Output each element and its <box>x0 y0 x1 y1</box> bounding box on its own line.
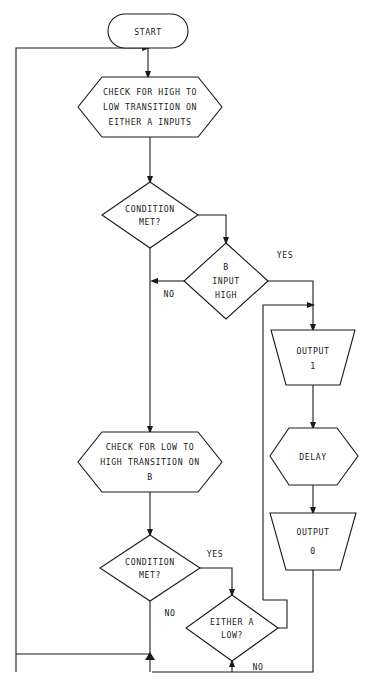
node-condition-met-2-line2: MET? <box>139 570 161 580</box>
node-condition-met-1-line1: CONDITION <box>125 204 175 214</box>
connector-condition-2-yes <box>200 568 232 595</box>
node-either-a-low[interactable] <box>186 595 278 661</box>
edge-label-condition-2-yes: YES <box>207 549 224 559</box>
node-check-high-low-line2: LOW TRANSITION ON <box>103 102 197 112</box>
node-output-0[interactable] <box>270 513 356 570</box>
connector-b-input-high-yes <box>268 281 313 305</box>
flowchart-canvas: START CHECK FOR HIGH TO LOW TRANSITION O… <box>0 0 369 690</box>
edge-label-b-input-high-yes: YES <box>277 250 294 260</box>
edge-label-either-a-low-no: NO <box>252 662 263 672</box>
node-b-input-high-line2: INPUT <box>212 276 240 286</box>
node-check-high-low-line3: EITHER A INPUTS <box>109 117 192 127</box>
arrowhead-b-input-high-no <box>150 278 158 284</box>
node-check-low-high-line3: B <box>147 472 153 482</box>
node-condition-met-2[interactable] <box>100 535 200 601</box>
node-delay-label: DELAY <box>299 452 327 462</box>
node-output-0-line1: OUTPUT <box>296 527 329 537</box>
node-check-high-low-line1: CHECK FOR HIGH TO <box>103 87 197 97</box>
node-check-low-high-line2: HIGH TRANSITION ON <box>100 457 200 467</box>
connector-condition-1-to-b-input-high <box>198 215 226 243</box>
node-output-1-line1: OUTPUT <box>296 346 329 356</box>
node-output-0-line2: 0 <box>310 546 316 556</box>
edge-label-b-input-high-no: NO <box>163 289 174 299</box>
node-condition-met-2-line1: CONDITION <box>125 557 175 567</box>
edge-label-condition-2-no: NO <box>164 608 175 618</box>
node-b-input-high-line3: HIGH <box>215 290 237 300</box>
node-either-a-low-line1: EITHER A <box>210 617 254 627</box>
node-output-1-line2: 1 <box>310 361 316 371</box>
node-output-1[interactable] <box>271 330 355 385</box>
node-condition-met-1-line2: MET? <box>139 217 161 227</box>
node-either-a-low-line2: LOW? <box>221 630 243 640</box>
node-start-label: START <box>134 27 162 37</box>
node-b-input-high-line1: B <box>223 262 229 272</box>
node-check-low-high-line1: CHECK FOR LOW TO <box>106 442 194 452</box>
node-condition-met-1[interactable] <box>102 182 198 248</box>
flowchart-svg: START CHECK FOR HIGH TO LOW TRANSITION O… <box>0 0 369 690</box>
arrowhead-bottom-left-rail-entry <box>145 652 155 660</box>
arrowhead-either-a-low-yes-feedback <box>307 302 315 308</box>
